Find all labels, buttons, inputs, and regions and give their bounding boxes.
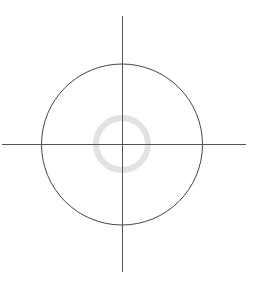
reticle-diagram <box>0 0 257 284</box>
